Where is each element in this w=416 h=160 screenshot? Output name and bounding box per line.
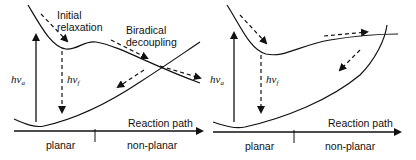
- return-arrow: [118, 70, 144, 87]
- axis-label: Reaction path: [328, 117, 393, 129]
- absorption-label: hνa: [11, 73, 25, 87]
- planar-label: planar: [245, 140, 275, 152]
- initial-relaxation-arrow: [240, 15, 266, 43]
- non-planar-label: non-planar: [325, 140, 376, 152]
- ground-state-curve: [14, 42, 200, 127]
- potential-energy-diagrams: hνa hνf Initial relaxation Biradical dec…: [0, 0, 416, 160]
- absorption-label: hνa: [210, 73, 224, 87]
- axis-label: Reaction path: [128, 117, 193, 129]
- initial-label: Initial: [57, 9, 82, 21]
- right-panel: hνa hνf Reaction path planar non-planar: [210, 5, 400, 152]
- biradical-label: Biradical: [126, 24, 166, 36]
- decoupling-label: decoupling: [126, 36, 177, 48]
- return-arrow: [340, 50, 360, 70]
- left-panel: hνa hνf Initial relaxation Biradical dec…: [11, 5, 202, 151]
- planar-label: planar: [46, 139, 76, 151]
- biradical-arrow-2: [160, 66, 200, 78]
- relaxation-label: relaxation: [57, 21, 103, 33]
- non-planar-label: non-planar: [127, 139, 178, 151]
- ground-state-curve: [213, 25, 387, 128]
- fluorescence-label: hνf: [266, 73, 279, 87]
- fluorescence-label: hνf: [67, 73, 80, 87]
- excited-state-curve: [227, 5, 398, 55]
